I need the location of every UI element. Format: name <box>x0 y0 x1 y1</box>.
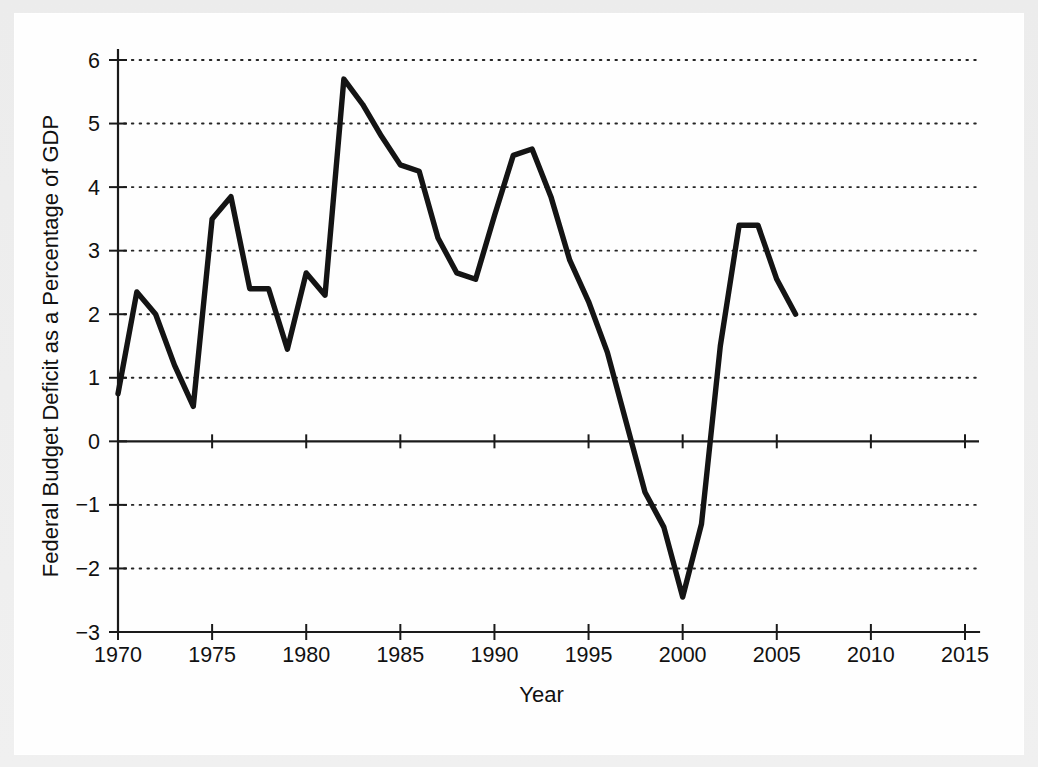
x-axis-title: Year <box>519 682 563 707</box>
y-tick-label: −3 <box>75 621 100 645</box>
x-tick-label: 2000 <box>659 643 707 667</box>
data-line <box>118 79 796 597</box>
y-tick-label: −1 <box>75 493 100 517</box>
y-tick-label: 3 <box>88 239 100 263</box>
x-tick-label: 1985 <box>376 643 424 667</box>
y-tick-label: −2 <box>75 557 100 581</box>
y-tick-label: 2 <box>88 303 100 327</box>
chart-figure: −3−2−10123456 19701975198019851990199520… <box>14 13 1024 755</box>
y-tick-label: 5 <box>88 112 100 136</box>
x-tick-label: 2015 <box>941 643 989 667</box>
y-tick-label: 0 <box>88 430 100 454</box>
x-axis-group <box>118 624 979 640</box>
x-tick-label: 1995 <box>565 643 613 667</box>
y-tick-label: 1 <box>88 366 100 390</box>
scan-border: −3−2−10123456 19701975198019851990199520… <box>0 0 1038 767</box>
y-tick-label: 4 <box>88 176 100 200</box>
y-tick-label: 6 <box>88 49 100 73</box>
y-axis-group <box>109 50 127 632</box>
y-tick-labels: −3−2−10123456 <box>75 49 100 645</box>
x-tick-label: 1990 <box>471 643 519 667</box>
page-sheet: −3−2−10123456 19701975198019851990199520… <box>14 13 1024 755</box>
x-tick-label: 1970 <box>94 643 142 667</box>
line-chart: −3−2−10123456 19701975198019851990199520… <box>14 13 1024 755</box>
gridlines-group <box>124 60 979 568</box>
x-tick-label: 2005 <box>753 643 801 667</box>
x-tick-labels: 1970197519801985199019952000200520102015 <box>94 643 989 667</box>
x-tick-label: 1975 <box>188 643 236 667</box>
zero-axis-group <box>118 434 979 448</box>
y-axis-title: Federal Budget Deficit as a Percentage o… <box>38 115 63 577</box>
x-tick-label: 2010 <box>847 643 895 667</box>
x-tick-label: 1980 <box>282 643 330 667</box>
data-series-group <box>118 79 796 597</box>
